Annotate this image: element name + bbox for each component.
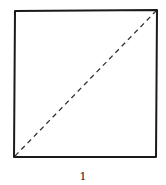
- figure-label: 1: [0, 170, 166, 183]
- dashed-diagonal: [15, 11, 156, 156]
- figure-diagram: [0, 0, 166, 185]
